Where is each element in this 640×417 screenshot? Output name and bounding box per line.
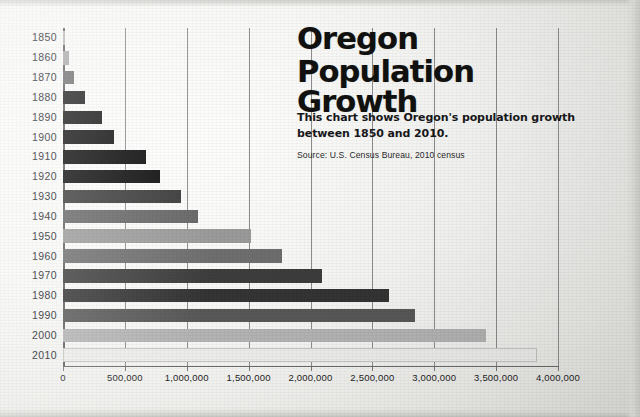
bar-1940 xyxy=(63,210,198,224)
x-tick-label-2000000: 2,000,000 xyxy=(288,372,332,383)
x-tick-label-0: 0 xyxy=(60,372,65,383)
y-tick-label-1940: 1940 xyxy=(32,210,57,222)
y-tick-label-2010: 2010 xyxy=(32,349,57,361)
x-tick-label-4000000: 4,000,000 xyxy=(536,372,580,383)
photographed-page: 1850186018701880189019001910192019301940… xyxy=(0,0,640,417)
bar-1930 xyxy=(63,190,181,204)
x-tick-label-500000: 500,000 xyxy=(107,372,143,383)
chart-source-note: Source: U.S. Census Bureau, 2010 census xyxy=(297,150,597,160)
chart-title-line-2: Population Growth xyxy=(297,57,603,117)
bar-2010 xyxy=(63,348,537,362)
bar-row xyxy=(63,170,558,184)
bar-row xyxy=(63,269,558,283)
bar-row xyxy=(63,190,558,204)
bar-1880 xyxy=(63,91,85,105)
bar-row xyxy=(63,210,558,224)
bar-row xyxy=(63,309,558,323)
y-tick-label-1950: 1950 xyxy=(32,230,57,242)
x-tick-label-2500000: 2,500,000 xyxy=(350,372,394,383)
y-tick-label-1970: 1970 xyxy=(32,269,57,281)
bar-1900 xyxy=(63,130,114,144)
y-tick-label-2000: 2000 xyxy=(32,329,57,341)
chart-title-block: Oregon Population Growth xyxy=(297,24,597,119)
x-tick-label-1500000: 1,500,000 xyxy=(227,372,271,383)
bar-row xyxy=(63,229,558,243)
bar-1920 xyxy=(63,170,160,184)
x-axis-line xyxy=(63,366,559,367)
y-tick-label-1980: 1980 xyxy=(32,289,57,301)
bar-row xyxy=(63,289,558,303)
bar-1950 xyxy=(63,229,251,243)
y-tick-label-1850: 1850 xyxy=(32,31,57,43)
bar-1870 xyxy=(63,71,74,85)
bar-1970 xyxy=(63,269,322,283)
chart-title-line-1: Oregon xyxy=(297,24,603,54)
x-tick-label-3500000: 3,500,000 xyxy=(474,372,518,383)
bar-1960 xyxy=(63,249,282,263)
bar-row xyxy=(63,348,558,362)
chart-description: This chart shows Oregon's population gro… xyxy=(297,110,597,142)
bar-1990 xyxy=(63,309,415,323)
y-tick-label-1880: 1880 xyxy=(32,91,57,103)
bar-2000 xyxy=(63,329,486,343)
y-tick-label-1990: 1990 xyxy=(32,309,57,321)
bar-1860 xyxy=(63,51,69,65)
bar-row xyxy=(63,329,558,343)
y-tick-label-1890: 1890 xyxy=(32,111,57,123)
y-tick-label-1920: 1920 xyxy=(32,170,57,182)
y-tick-label-1960: 1960 xyxy=(32,250,57,262)
bar-1890 xyxy=(63,111,102,125)
y-tick-label-1860: 1860 xyxy=(32,51,57,63)
y-tick-label-1930: 1930 xyxy=(32,190,57,202)
bar-1980 xyxy=(63,289,389,303)
y-tick-label-1900: 1900 xyxy=(32,131,57,143)
bar-1850 xyxy=(63,31,65,45)
x-tick-label-1000000: 1,000,000 xyxy=(165,372,209,383)
y-tick-label-1870: 1870 xyxy=(32,71,57,83)
bar-1910 xyxy=(63,150,146,164)
x-tick-label-3000000: 3,000,000 xyxy=(412,372,456,383)
bar-row xyxy=(63,249,558,263)
y-tick-label-1910: 1910 xyxy=(32,150,57,162)
